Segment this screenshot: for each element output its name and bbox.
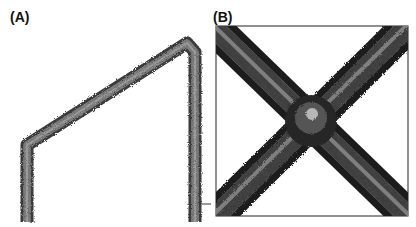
- junction-bead-highlight: [306, 108, 318, 120]
- figure-canvas: [0, 0, 416, 227]
- panel-a-image: [27, 43, 195, 222]
- filament-a-core: [27, 43, 195, 222]
